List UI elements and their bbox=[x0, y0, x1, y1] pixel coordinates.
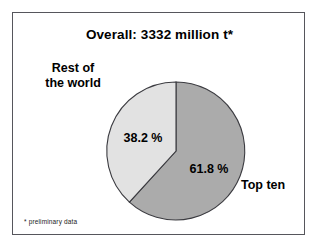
pie-label-rest-of-world-line1: Rest of bbox=[28, 61, 118, 76]
pie-label-top-ten: Top ten bbox=[241, 178, 303, 192]
pie-label-rest-of-world: Rest of the world bbox=[28, 61, 118, 91]
pie-chart-area: Rest of the world 38.2 % 61.8 % Top ten bbox=[13, 13, 306, 236]
chart-frame: Overall: 3332 million t* Rest of the wor… bbox=[12, 12, 305, 235]
pie-label-rest-of-world-line2: the world bbox=[28, 76, 118, 91]
chart-screenshot: Overall: 3332 million t* Rest of the wor… bbox=[0, 0, 318, 249]
chart-footnote: * preliminary data bbox=[24, 218, 77, 225]
pie-value-top-ten: 61.8 % bbox=[178, 162, 240, 176]
pie-value-rest-of-world: 38.2 % bbox=[112, 131, 174, 145]
